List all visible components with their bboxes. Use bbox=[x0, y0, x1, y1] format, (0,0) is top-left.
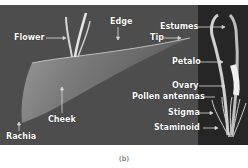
label-tip: Tip bbox=[150, 33, 164, 42]
label-stigma: Stigma bbox=[168, 108, 200, 117]
flower-illustration bbox=[0, 5, 248, 145]
bract-shape bbox=[21, 38, 190, 123]
label-petalo: Petalo bbox=[172, 57, 201, 66]
label-rachia: Rachia bbox=[6, 132, 36, 141]
label-pollen-antennas: Pollen antennas bbox=[132, 92, 205, 101]
label-ovary: Ovary bbox=[172, 81, 199, 90]
figure-caption: (b) bbox=[0, 155, 248, 163]
label-edge: Edge bbox=[110, 17, 132, 26]
label-estumes: Estumes bbox=[160, 22, 198, 31]
label-cheek: Cheek bbox=[48, 115, 76, 124]
label-flower: Flower bbox=[14, 33, 44, 42]
flower-anatomy-figure: Flower Edge Estumes Tip Petalo Ovary Pol… bbox=[0, 5, 248, 145]
label-staminoid: Staminoid bbox=[154, 123, 200, 132]
